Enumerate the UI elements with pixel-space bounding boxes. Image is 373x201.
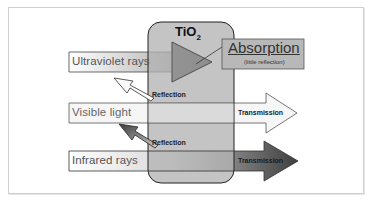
absorption-label: Absorption xyxy=(228,39,300,56)
transmission-label-infrared: Transmission xyxy=(238,157,283,164)
visible-light-label: Visible light xyxy=(72,106,131,118)
absorption-note: (little reflection) xyxy=(244,59,285,65)
reflection-label-visible: Reflection xyxy=(152,91,186,98)
reflection-label-infrared: Reflection xyxy=(152,139,186,146)
tio2-block xyxy=(148,22,234,183)
tio2-label: TiO2 xyxy=(175,24,201,42)
infrared-label: Infrared rays xyxy=(72,154,138,166)
ultraviolet-label: Ultraviolet rays xyxy=(72,55,150,67)
transmission-label-visible: Transmission xyxy=(238,109,283,116)
